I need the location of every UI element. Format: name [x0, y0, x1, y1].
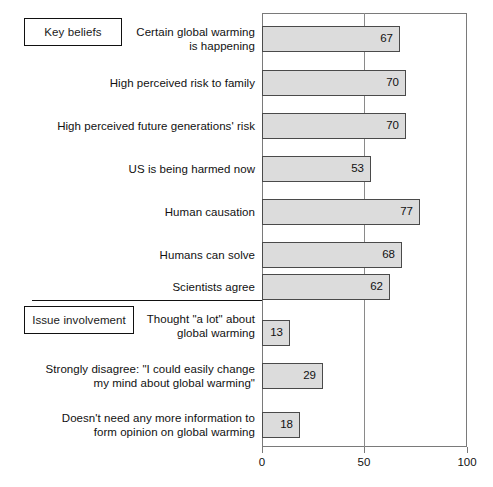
bar-value: 77 [400, 206, 419, 218]
category-label: High perceived risk to family [15, 77, 255, 91]
bar: 62 [262, 274, 390, 300]
bar: 68 [262, 242, 402, 268]
category-label: Doesn't need any more information to for… [15, 412, 255, 439]
x-tick-label-0: 0 [259, 456, 265, 468]
bar: 13 [262, 320, 290, 346]
category-label: Humans can solve [15, 249, 255, 263]
category-label-line: Doesn't need any more information to [15, 412, 255, 426]
category-label-line: Thought "a lot" about [15, 313, 255, 327]
category-label-line: US is being harmed now [15, 163, 255, 177]
category-label-line: High perceived future generations' risk [15, 120, 255, 134]
category-label-line: Human causation [15, 206, 255, 220]
bar: 53 [262, 156, 371, 182]
bar-value: 70 [386, 120, 405, 132]
category-label-line: form opinion on global warming [15, 426, 255, 440]
x-tick-mark-50 [364, 447, 365, 453]
bar-value: 29 [303, 370, 322, 382]
category-label: US is being harmed now [15, 163, 255, 177]
bar-value: 18 [280, 419, 299, 431]
category-label-line: is happening [15, 40, 255, 54]
category-label-line: my mind about global warming" [15, 377, 255, 391]
category-label-line: Strongly disagree: "I could easily chang… [15, 363, 255, 377]
category-label: Scientists agree [15, 281, 255, 295]
x-tick-mark-100 [467, 447, 468, 453]
x-tick-label-50: 50 [358, 456, 371, 468]
category-label: Human causation [15, 206, 255, 220]
bar: 70 [262, 70, 406, 96]
bar: 67 [262, 26, 400, 52]
category-label-line: global warming [15, 327, 255, 341]
group-separator-line [32, 300, 263, 301]
category-label-line: Certain global warming [15, 26, 255, 40]
bar: 18 [262, 412, 300, 438]
category-label: Thought "a lot" about global warming [15, 313, 255, 340]
bar: 70 [262, 113, 406, 139]
bar-value: 70 [386, 77, 405, 89]
bar-chart: Key beliefs Issue involvement Certain gl… [0, 0, 493, 487]
bar-value: 67 [380, 33, 399, 45]
bar-value: 13 [270, 327, 289, 339]
category-label-line: Scientists agree [15, 281, 255, 295]
bar: 77 [262, 199, 420, 225]
bar-value: 68 [382, 249, 401, 261]
x-tick-mark-0 [262, 447, 263, 453]
category-label: High perceived future generations' risk [15, 120, 255, 134]
category-label: Certain global warming is happening [15, 26, 255, 53]
x-tick-label-100: 100 [457, 456, 476, 468]
category-label-line: Humans can solve [15, 249, 255, 263]
category-label-line: High perceived risk to family [15, 77, 255, 91]
bar-value: 62 [370, 281, 389, 293]
bar: 29 [262, 363, 323, 389]
bar-value: 53 [351, 163, 370, 175]
category-label: Strongly disagree: "I could easily chang… [15, 363, 255, 390]
